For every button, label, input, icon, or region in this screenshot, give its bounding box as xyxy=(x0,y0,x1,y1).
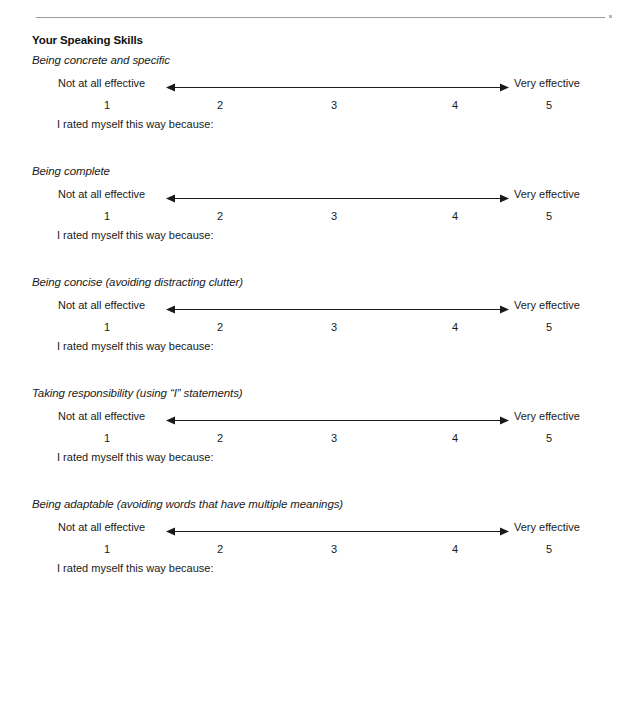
scale-tick-1[interactable]: 1 xyxy=(104,320,110,334)
scale-tick-4[interactable]: 4 xyxy=(452,320,458,334)
double-arrow-icon xyxy=(166,416,509,425)
rationale-prompt: I rated myself this way because: xyxy=(57,117,625,132)
scale-tick-1[interactable]: 1 xyxy=(104,542,110,556)
scale-left-label: Not at all effective xyxy=(58,520,145,534)
scale-tick-2[interactable]: 2 xyxy=(217,320,223,334)
scale-left-label: Not at all effective xyxy=(58,187,145,201)
rating-block-heading: Being concise (avoiding distracting clut… xyxy=(32,273,625,291)
margin-dot-mark xyxy=(609,15,612,18)
rating-scale[interactable]: Not at all effective Very effective xyxy=(0,520,625,542)
rating-block: Being concrete and specific Not at all e… xyxy=(0,51,625,132)
block-spacer xyxy=(0,465,625,495)
worksheet-body: Your Speaking Skills Being concrete and … xyxy=(0,34,625,576)
rating-block: Being complete Not at all effective Very… xyxy=(0,162,625,243)
rating-block: Being concise (avoiding distracting clut… xyxy=(0,273,625,354)
block-spacer xyxy=(0,354,625,384)
scale-tick-1[interactable]: 1 xyxy=(104,431,110,445)
scale-tick-3[interactable]: 3 xyxy=(331,431,337,445)
double-arrow-icon xyxy=(166,83,509,92)
rating-scale[interactable]: Not at all effective Very effective xyxy=(0,409,625,431)
scale-tick-row: 1 2 3 4 5 xyxy=(0,98,625,115)
scale-tick-row: 1 2 3 4 5 xyxy=(0,542,625,559)
double-arrow-icon xyxy=(166,527,509,536)
scale-tick-2[interactable]: 2 xyxy=(217,542,223,556)
scale-left-label: Not at all effective xyxy=(58,409,145,423)
scale-right-label: Very effective xyxy=(514,520,580,534)
scale-tick-row: 1 2 3 4 5 xyxy=(0,320,625,337)
scale-tick-3[interactable]: 3 xyxy=(331,98,337,112)
rationale-prompt: I rated myself this way because: xyxy=(57,339,625,354)
horizontal-rule xyxy=(36,17,605,18)
rating-block: Taking responsibility (using “I” stateme… xyxy=(0,384,625,465)
scale-right-label: Very effective xyxy=(514,409,580,423)
scale-right-label: Very effective xyxy=(514,76,580,90)
scale-tick-5[interactable]: 5 xyxy=(546,542,552,556)
rating-block: Being adaptable (avoiding words that hav… xyxy=(0,495,625,576)
scale-tick-4[interactable]: 4 xyxy=(452,431,458,445)
scale-tick-4[interactable]: 4 xyxy=(452,542,458,556)
scale-tick-2[interactable]: 2 xyxy=(217,431,223,445)
scale-tick-3[interactable]: 3 xyxy=(331,542,337,556)
scale-tick-5[interactable]: 5 xyxy=(546,320,552,334)
scale-right-label: Very effective xyxy=(514,298,580,312)
scale-tick-1[interactable]: 1 xyxy=(104,209,110,223)
page-title: Your Speaking Skills xyxy=(32,34,625,46)
page-header-rule-area xyxy=(0,0,625,30)
scale-tick-4[interactable]: 4 xyxy=(452,98,458,112)
scale-left-label: Not at all effective xyxy=(58,76,145,90)
scale-tick-5[interactable]: 5 xyxy=(546,209,552,223)
scale-tick-3[interactable]: 3 xyxy=(331,209,337,223)
rationale-prompt: I rated myself this way because: xyxy=(57,228,625,243)
double-arrow-icon xyxy=(166,305,509,314)
rating-scale[interactable]: Not at all effective Very effective xyxy=(0,298,625,320)
rationale-prompt: I rated myself this way because: xyxy=(57,561,625,576)
scale-left-label: Not at all effective xyxy=(58,298,145,312)
rating-scale[interactable]: Not at all effective Very effective xyxy=(0,76,625,98)
scale-tick-row: 1 2 3 4 5 xyxy=(0,209,625,226)
block-spacer xyxy=(0,132,625,162)
scale-tick-5[interactable]: 5 xyxy=(546,98,552,112)
rating-scale[interactable]: Not at all effective Very effective xyxy=(0,187,625,209)
rationale-prompt: I rated myself this way because: xyxy=(57,450,625,465)
rating-block-heading: Being concrete and specific xyxy=(32,51,625,69)
scale-tick-1[interactable]: 1 xyxy=(104,98,110,112)
block-spacer xyxy=(0,243,625,273)
scale-tick-2[interactable]: 2 xyxy=(217,209,223,223)
scale-tick-2[interactable]: 2 xyxy=(217,98,223,112)
rating-block-heading: Being adaptable (avoiding words that hav… xyxy=(32,495,625,513)
rating-block-heading: Taking responsibility (using “I” stateme… xyxy=(32,384,625,402)
double-arrow-icon xyxy=(166,194,509,203)
scale-tick-row: 1 2 3 4 5 xyxy=(0,431,625,448)
scale-right-label: Very effective xyxy=(514,187,580,201)
scale-tick-4[interactable]: 4 xyxy=(452,209,458,223)
rating-block-heading: Being complete xyxy=(32,162,625,180)
scale-tick-3[interactable]: 3 xyxy=(331,320,337,334)
scale-tick-5[interactable]: 5 xyxy=(546,431,552,445)
